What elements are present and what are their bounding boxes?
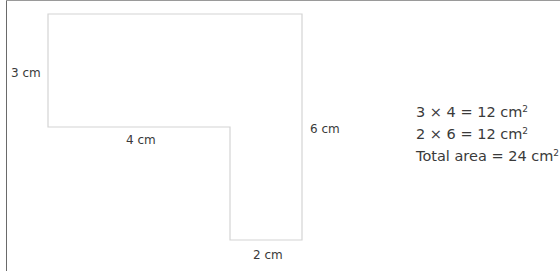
calc-line-2: 2 × 6 = 12 cm2 (416, 122, 559, 144)
label-right-height: 6 cm (310, 122, 340, 136)
label-bottom-left-width: 4 cm (126, 133, 156, 147)
label-bottom-width: 2 cm (253, 248, 283, 262)
calc-line-1: 3 × 4 = 12 cm2 (416, 100, 559, 122)
calc-total: Total area = 24 cm2 (416, 144, 559, 166)
label-left-height: 3 cm (11, 66, 41, 80)
area-calculation: 3 × 4 = 12 cm2 2 × 6 = 12 cm2 Total area… (416, 100, 559, 166)
